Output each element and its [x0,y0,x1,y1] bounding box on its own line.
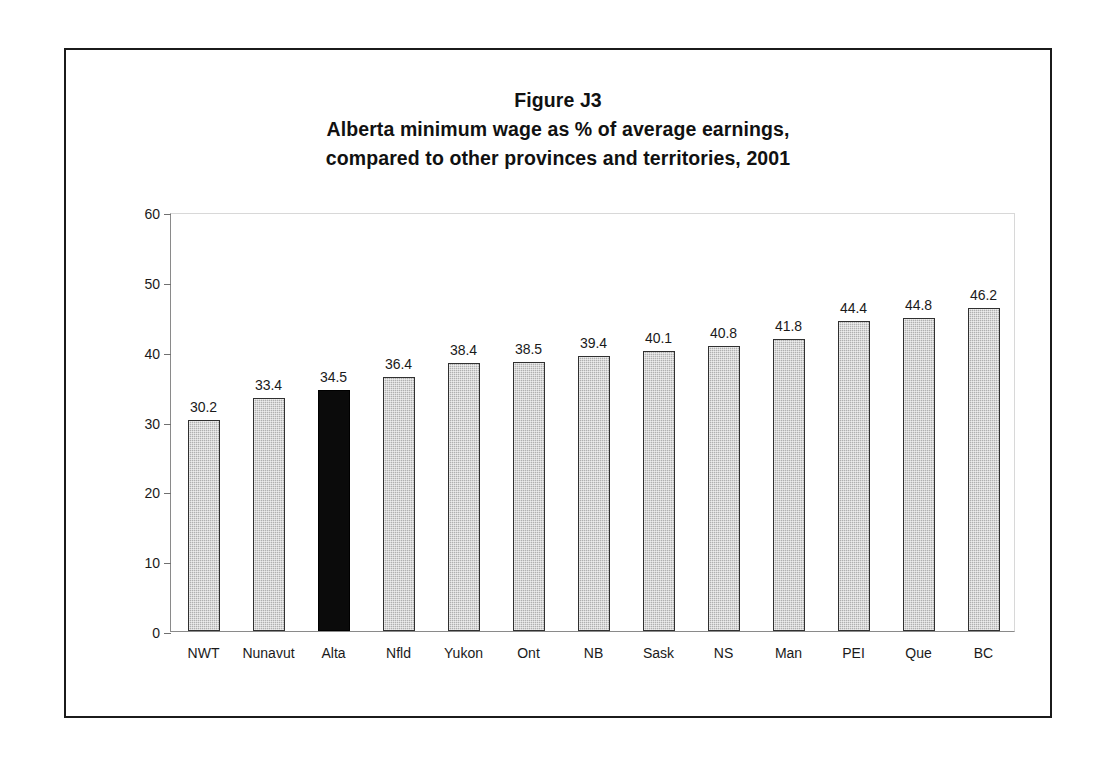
x-axis-category-label: BC [974,645,993,661]
bar-nb[interactable] [578,356,610,631]
bar-nunavut[interactable] [253,398,285,631]
bar-nwt[interactable] [188,420,220,631]
figure-title-line-3: compared to other provinces and territor… [66,144,1050,173]
y-axis-tick-mark [164,633,171,634]
bar-value-label: 33.4 [255,377,282,393]
y-axis-tick: 60 [144,205,171,223]
bar-pei[interactable] [838,321,870,631]
y-axis-tick: 30 [144,415,171,433]
y-axis-tick-mark [164,424,171,425]
bar-value-label: 36.4 [385,356,412,372]
bar-value-label: 38.4 [450,342,477,358]
bar-alta[interactable] [318,390,350,631]
y-axis-tick-mark [164,354,171,355]
bar-group: 34.5Alta [301,214,366,631]
bar-group: 41.8Man [756,214,821,631]
bar-ont[interactable] [513,362,545,631]
x-axis-category-label: NWT [188,645,220,661]
bar-group: 39.4NB [561,214,626,631]
y-axis-tick: 50 [144,275,171,293]
bar-value-label: 44.4 [840,300,867,316]
bar-group: 38.4Yukon [431,214,496,631]
y-axis-tick-label: 60 [144,206,160,222]
y-axis-tick-mark [164,284,171,285]
bar-value-label: 38.5 [515,341,542,357]
bar-series: 30.2NWT33.4Nunavut34.5Alta36.4Nfld38.4Yu… [171,214,1014,631]
bar-bc[interactable] [968,308,1000,631]
y-axis-tick-mark [164,563,171,564]
y-axis-tick-mark [164,214,171,215]
bar-value-label: 41.8 [775,318,802,334]
x-axis-category-label: NB [584,645,603,661]
bar-value-label: 44.8 [905,297,932,313]
bar-value-label: 40.8 [710,325,737,341]
y-axis-tick-label: 20 [144,485,160,501]
y-axis-tick: 40 [144,345,171,363]
bar-value-label: 46.2 [970,287,997,303]
bar-ns[interactable] [708,346,740,631]
bar-group: 36.4Nfld [366,214,431,631]
bar-yukon[interactable] [448,363,480,631]
y-axis-tick-mark [164,493,171,494]
bar-value-label: 30.2 [190,399,217,415]
x-axis-category-label: PEI [842,645,865,661]
x-axis-category-label: Man [775,645,802,661]
bar-group: 44.4PEI [821,214,886,631]
bar-group: 33.4Nunavut [236,214,301,631]
chart-plot-area: 0102030405060 30.2NWT33.4Nunavut34.5Alta… [170,213,1015,632]
bar-group: 30.2NWT [171,214,236,631]
y-axis-tick: 20 [144,484,171,502]
x-axis-category-label: Alta [321,645,345,661]
figure-title-line-2: Alberta minimum wage as % of average ear… [66,115,1050,144]
y-axis-tick-label: 40 [144,346,160,362]
bar-group: 40.8NS [691,214,756,631]
bar-value-label: 40.1 [645,330,672,346]
y-axis-tick: 0 [152,624,171,642]
bar-group: 40.1Sask [626,214,691,631]
x-axis-category-label: Yukon [444,645,483,661]
y-axis-tick-label: 30 [144,416,160,432]
figure-title-line-1: Figure J3 [66,86,1050,115]
figure-frame: Figure J3 Alberta minimum wage as % of a… [64,48,1052,718]
bar-value-label: 34.5 [320,369,347,385]
x-axis-category-label: Sask [643,645,674,661]
x-axis-category-label: NS [714,645,733,661]
figure-title-block: Figure J3 Alberta minimum wage as % of a… [66,86,1050,173]
bar-value-label: 39.4 [580,335,607,351]
x-axis-category-label: Ont [517,645,540,661]
y-axis-tick-label: 0 [152,625,160,641]
bar-sask[interactable] [643,351,675,631]
bar-nfld[interactable] [383,377,415,631]
bar-que[interactable] [903,318,935,631]
y-axis-tick: 10 [144,554,171,572]
x-axis-category-label: Que [905,645,931,661]
x-axis-category-label: Nunavut [242,645,294,661]
y-axis-tick-label: 50 [144,276,160,292]
bar-group: 44.8Que [886,214,951,631]
bar-group: 46.2BC [951,214,1016,631]
bar-group: 38.5Ont [496,214,561,631]
y-axis-tick-label: 10 [144,555,160,571]
x-axis-category-label: Nfld [386,645,411,661]
bar-man[interactable] [773,339,805,631]
